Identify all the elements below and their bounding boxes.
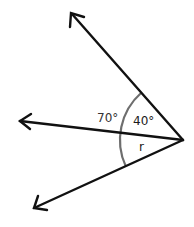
angle-label-70: 70° [97,112,118,124]
angle-arc [120,93,141,167]
angle-label-40: 40° [133,115,154,127]
lower-ray [34,140,183,210]
upper-ray [70,13,183,140]
angle-label-r: r [139,141,144,153]
